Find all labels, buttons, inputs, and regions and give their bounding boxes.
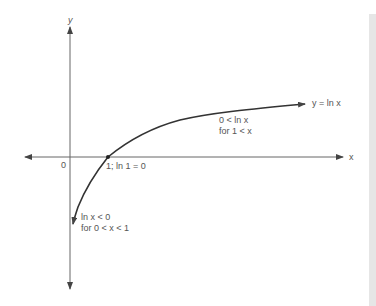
curve-label: y = ln x [312, 98, 341, 109]
origin-label: 0 [61, 160, 66, 171]
negative-region-line1: ln x < 0 [81, 212, 110, 223]
x-axis-label: x [349, 152, 354, 163]
ln-graph-figure: y x 0 y = ln x 1; ln 1 = 0 0 < ln x for … [0, 0, 376, 306]
intercept-point [106, 155, 110, 159]
positive-region-line1: 0 < ln x [219, 115, 248, 126]
y-axis-label: y [68, 15, 73, 26]
ln-curve-upper [108, 104, 305, 157]
negative-region-line2: for 0 < x < 1 [81, 223, 129, 234]
positive-region-line2: for 1 < x [219, 126, 252, 137]
graph-canvas [0, 0, 376, 306]
intercept-label: 1; ln 1 = 0 [106, 161, 146, 172]
